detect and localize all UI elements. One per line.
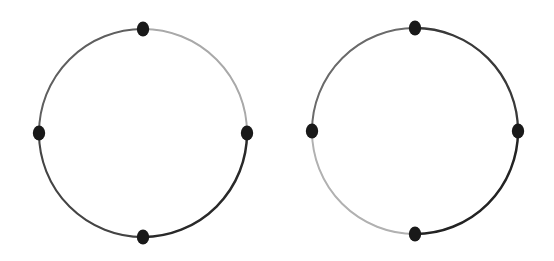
- figure-background: [0, 0, 554, 261]
- cycle-graph-figure: [0, 0, 554, 261]
- graph-node: [137, 21, 149, 36]
- graph-node: [409, 226, 421, 241]
- graph-node: [137, 229, 149, 244]
- graph-node: [33, 125, 45, 140]
- graph-node: [409, 20, 421, 35]
- figure-root: [0, 0, 554, 261]
- graph-node: [306, 123, 318, 138]
- graph-node: [241, 125, 253, 140]
- graph-node: [512, 123, 524, 138]
